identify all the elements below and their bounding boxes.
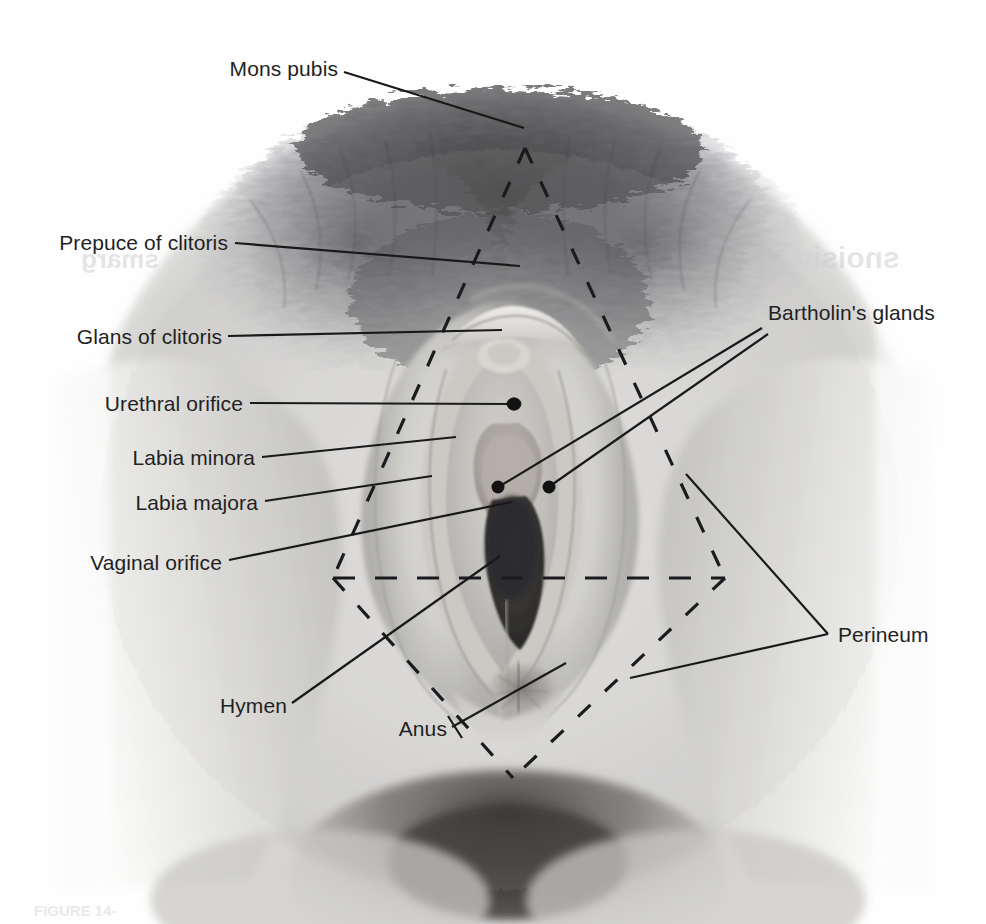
paper-grain xyxy=(0,0,986,924)
figure-canvas: snoisiv smarg xyxy=(0,0,986,924)
anatomy-figure: snoisiv smarg xyxy=(0,0,986,924)
